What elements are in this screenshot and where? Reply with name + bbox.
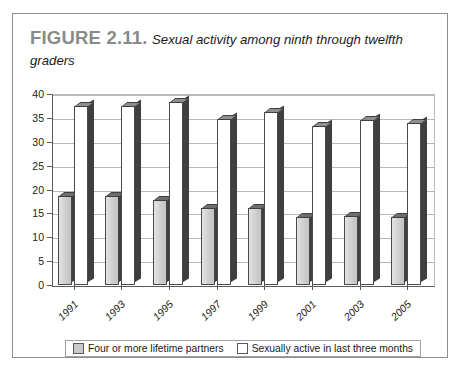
bar-front-face	[391, 217, 405, 285]
bar-1999-series1	[264, 112, 278, 285]
legend-item-1: Sexually active in last three months	[237, 343, 413, 354]
x-axis-tick-mark	[217, 285, 218, 290]
bar-front-face	[407, 123, 421, 285]
y-axis-tick-mark	[47, 118, 52, 119]
bar-front-face	[121, 106, 135, 285]
bar-1993-series0	[105, 196, 119, 285]
x-axis-tick-label: 2005	[381, 298, 414, 331]
bar-1993-series1	[121, 106, 135, 285]
legend-swatch-icon	[73, 343, 84, 354]
y-axis-tick-mark	[47, 261, 52, 262]
x-axis-tick-mark	[264, 285, 265, 290]
bar-side-face	[278, 105, 284, 282]
legend-item-0: Four or more lifetime partners	[73, 343, 224, 354]
bar-side-face	[88, 99, 94, 282]
chart-legend: Four or more lifetime partnersSexually a…	[65, 340, 421, 357]
y-axis-tick-label: 35	[32, 112, 44, 124]
legend-swatch-icon	[237, 343, 248, 354]
bar-side-face	[231, 112, 237, 282]
x-axis-tick-label: 2001	[286, 298, 319, 331]
bar-front-face	[264, 112, 278, 285]
gridline	[53, 95, 434, 96]
bar-front-face	[105, 196, 119, 285]
y-axis-tick-mark	[47, 166, 52, 167]
bar-front-face	[58, 196, 72, 285]
bar-2005-series1	[407, 123, 421, 285]
x-axis-tick-mark	[169, 285, 170, 290]
bar-2003-series1	[360, 120, 374, 285]
bar-2005-series0	[391, 217, 405, 285]
y-axis-tick-label: 40	[32, 88, 44, 100]
y-axis-tick-label: 0	[38, 279, 44, 291]
y-axis-tick-label: 10	[32, 231, 44, 243]
bar-1991-series0	[58, 196, 72, 285]
y-axis-tick-label: 25	[32, 160, 44, 172]
bar-1997-series1	[217, 119, 231, 285]
x-axis-tick-label: 1999	[238, 298, 271, 331]
y-axis-tick-label: 15	[32, 207, 44, 219]
x-axis-tick-label: 1997	[190, 298, 223, 331]
bar-side-face	[135, 99, 141, 282]
bar-1999-series0	[248, 208, 262, 285]
bar-front-face	[360, 120, 374, 285]
bar-front-face	[248, 208, 262, 285]
y-axis-tick-label: 20	[32, 184, 44, 196]
x-axis-tick-mark	[360, 285, 361, 290]
bar-front-face	[312, 126, 326, 285]
y-axis-tick-mark	[47, 285, 52, 286]
y-axis-tick-mark	[47, 213, 52, 214]
bar-front-face	[201, 208, 215, 285]
bar-front-face	[153, 200, 167, 285]
bar-side-face	[421, 117, 427, 282]
y-axis-tick-mark	[47, 237, 52, 238]
figure-frame: FIGURE 2.11. Sexual activity among ninth…	[12, 13, 448, 358]
bar-side-face	[374, 113, 380, 282]
y-axis-tick-label: 5	[38, 255, 44, 267]
x-axis-tick-label: 1995	[143, 298, 176, 331]
bar-side-face	[183, 96, 189, 282]
bar-front-face	[296, 217, 310, 285]
bar-1995-series0	[153, 200, 167, 285]
x-axis-tick-mark	[312, 285, 313, 290]
legend-label: Sexually active in last three months	[252, 343, 413, 354]
y-axis-tick-mark	[47, 142, 52, 143]
y-axis-tick-mark	[47, 94, 52, 95]
x-axis-tick-label: 1993	[95, 298, 128, 331]
y-axis-tick-label: 30	[32, 136, 44, 148]
bar-side-face	[326, 119, 332, 282]
bar-front-face	[344, 216, 358, 285]
bar-2003-series0	[344, 216, 358, 285]
x-axis-tick-label: 2003	[333, 298, 366, 331]
bar-1995-series1	[169, 102, 183, 285]
bar-1991-series1	[74, 106, 88, 285]
bar-2001-series0	[296, 217, 310, 285]
bar-front-face	[169, 102, 183, 285]
y-axis-tick-mark	[47, 190, 52, 191]
x-axis-tick-mark	[121, 285, 122, 290]
bar-front-face	[74, 106, 88, 285]
bar-front-face	[217, 119, 231, 285]
bar-2001-series1	[312, 126, 326, 285]
legend-label: Four or more lifetime partners	[88, 343, 224, 354]
chart-canvas: 0510152025303540199119931995199719992001…	[13, 14, 449, 359]
bar-1997-series0	[201, 208, 215, 285]
x-axis-tick-mark	[74, 285, 75, 290]
x-axis-tick-label: 1991	[48, 298, 81, 331]
x-axis-tick-mark	[407, 285, 408, 290]
